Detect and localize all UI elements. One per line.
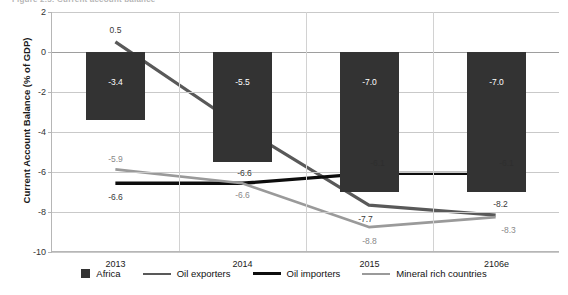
y-tick-label: -6 xyxy=(38,167,46,177)
y-tick-label: 0 xyxy=(41,47,46,57)
category-separator xyxy=(306,12,307,251)
point-value-label: -8.8 xyxy=(362,236,377,246)
y-tick-label: 2 xyxy=(41,7,46,17)
legend-label: Oil importers xyxy=(287,268,341,279)
line-swatch-icon xyxy=(253,272,281,275)
point-value-label: 0.5 xyxy=(110,25,122,35)
figure-title: Figure 2.5: Current account balance xyxy=(12,0,155,4)
chart-figure: Figure 2.5: Current account balance Curr… xyxy=(0,0,568,295)
bar-value-label: -5.5 xyxy=(235,77,250,87)
y-tick-label: -8 xyxy=(38,207,46,217)
legend-label: Oil exporters xyxy=(177,268,231,279)
y-tick-mark xyxy=(48,252,52,253)
legend-label: Africa xyxy=(96,268,120,279)
y-tick-mark xyxy=(48,52,52,53)
legend-item-africa[interactable]: Africa xyxy=(81,268,120,279)
point-value-label: -6.6 xyxy=(237,168,252,178)
point-value-label: -7.7 xyxy=(358,214,373,224)
legend-item-oil-exporters[interactable]: Oil exporters xyxy=(143,268,231,279)
y-tick-label: -4 xyxy=(38,127,46,137)
category-separator xyxy=(433,12,434,251)
gridline xyxy=(52,252,559,253)
point-value-label: -6.6 xyxy=(108,192,123,202)
y-tick-label: -2 xyxy=(38,87,46,97)
bar-2014[interactable] xyxy=(213,52,271,162)
y-tick-mark xyxy=(48,132,52,133)
chart-legend: Africa Oil exporters Oil importers Miner… xyxy=(0,268,568,279)
y-tick-mark xyxy=(48,12,52,13)
bar-2106e[interactable] xyxy=(467,52,525,192)
legend-label: Mineral rich countries xyxy=(396,268,486,279)
point-value-label: -6.6 xyxy=(235,190,250,200)
point-value-label: -5.9 xyxy=(108,154,123,164)
y-axis-title: Current Account Balance (% of GDP) xyxy=(21,11,32,231)
y-tick-mark xyxy=(48,92,52,93)
bar-2015[interactable] xyxy=(340,52,398,192)
y-tick-mark xyxy=(48,172,52,173)
line-swatch-icon xyxy=(362,273,390,275)
legend-item-oil-importers[interactable]: Oil importers xyxy=(253,268,341,279)
point-value-label: -6.1 xyxy=(370,158,385,168)
bar-value-label: -7.0 xyxy=(489,77,504,87)
bar-swatch-icon xyxy=(81,269,90,278)
point-value-label: -8.2 xyxy=(493,199,508,209)
point-value-label: -8.3 xyxy=(501,225,516,235)
category-separator xyxy=(179,12,180,251)
legend-item-mineral-rich[interactable]: Mineral rich countries xyxy=(362,268,486,279)
line-swatch-icon xyxy=(143,273,171,275)
bar-value-label: -3.4 xyxy=(108,77,123,87)
plot-area: 20-2-4-6-8-102013201420152106e-3.4-5.5-7… xyxy=(51,12,559,252)
y-tick-mark xyxy=(48,212,52,213)
y-tick-label: -10 xyxy=(33,247,46,257)
bar-value-label: -7.0 xyxy=(362,77,377,87)
point-value-label: -6.1 xyxy=(499,158,514,168)
